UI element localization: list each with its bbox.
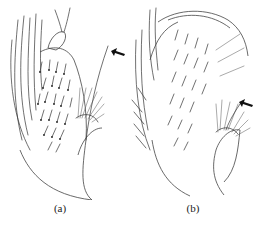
panel-b: (b): [128, 0, 257, 200]
arrow-icon-b: [239, 99, 253, 109]
setae-drawing-b: [128, 0, 257, 200]
figure: (a): [0, 0, 257, 225]
caption-b: (b): [173, 202, 213, 214]
setae-drawing-a: [0, 0, 128, 200]
caption-a: (a): [40, 202, 80, 214]
arrow-icon-a: [111, 48, 125, 58]
panel-a: (a): [0, 0, 128, 200]
